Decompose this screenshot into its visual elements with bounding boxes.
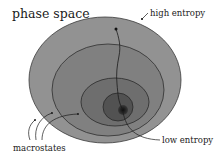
macrostates-label: macrostates: [13, 143, 66, 153]
high-entropy-label: high entropy: [150, 8, 205, 18]
macrostate-region-4: [103, 93, 133, 121]
phase-space-title: phase space: [12, 6, 90, 21]
low-entropy-label: low entropy: [162, 135, 213, 145]
phase-space-diagram: phase space high entropy low entropy mac…: [0, 0, 217, 159]
macrostate-arrow-1: [29, 120, 35, 140]
high-entropy-arrow: [142, 13, 148, 19]
